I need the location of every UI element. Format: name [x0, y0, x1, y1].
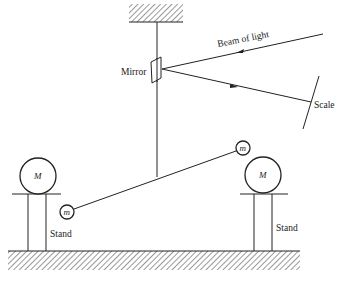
stand-left-label: Stand — [50, 229, 72, 239]
stand-left — [12, 194, 61, 251]
svg-text:m: m — [64, 207, 71, 217]
torsion-rod — [74, 151, 236, 209]
reflected-beam — [162, 69, 311, 102]
svg-text:M: M — [33, 171, 42, 181]
scale-label: Scale — [314, 100, 335, 110]
beam-label: Beam of light — [216, 29, 270, 49]
svg-text:M: M — [258, 170, 267, 180]
small-mass-left: m — [60, 205, 74, 219]
large-mass-right: M — [245, 157, 281, 193]
ceiling-support — [129, 4, 183, 22]
stand-right-label: Stand — [276, 223, 298, 233]
mirror — [151, 57, 161, 83]
ground — [8, 251, 300, 270]
large-mass-left: M — [20, 158, 56, 194]
small-mass-right: m — [236, 141, 250, 155]
svg-text:m: m — [240, 143, 247, 153]
mirror-label: Mirror — [121, 67, 147, 77]
arrow-icon — [236, 49, 244, 53]
cavendish-diagram: Mirror Beam of light Scale m m M Stand — [0, 0, 348, 284]
